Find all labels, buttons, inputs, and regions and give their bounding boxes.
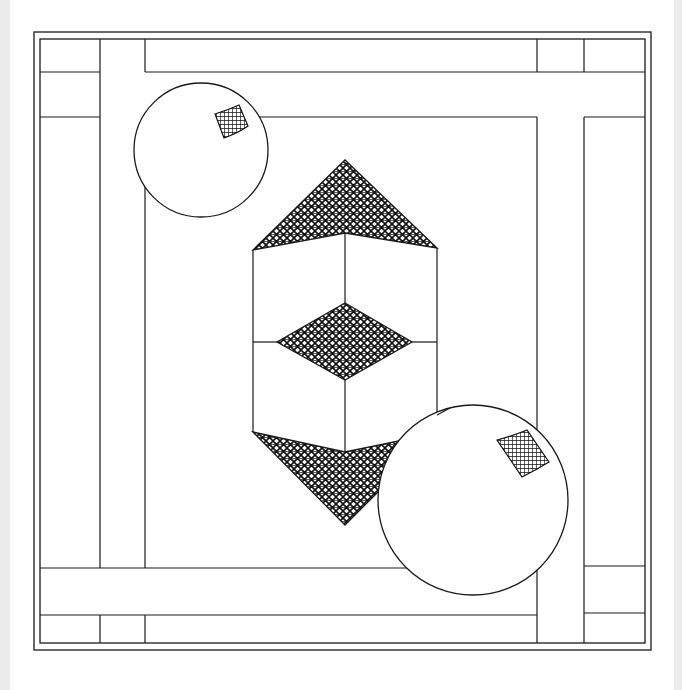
artwork-canvas	[0, 0, 682, 690]
small-sphere	[134, 83, 268, 217]
large-sphere	[378, 405, 568, 595]
